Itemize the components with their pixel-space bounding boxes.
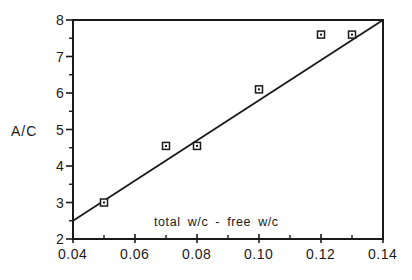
data-point xyxy=(163,142,170,149)
x-tick-label: 0.08 xyxy=(182,247,211,261)
data-point xyxy=(101,199,108,206)
x-tick-label: 0.12 xyxy=(306,247,335,261)
y-tick-label: 8 xyxy=(56,13,64,27)
fit-line xyxy=(73,20,383,221)
y-tick-label: 2 xyxy=(56,232,64,246)
data-point xyxy=(194,142,201,149)
plot-frame xyxy=(73,20,383,239)
plot-border xyxy=(73,20,383,239)
regression-line xyxy=(73,20,383,221)
marker-center-dot xyxy=(196,145,198,147)
y-axis-ticks xyxy=(66,20,73,239)
data-points xyxy=(101,31,356,206)
marker-center-dot xyxy=(103,202,105,204)
marker-center-dot xyxy=(320,34,322,36)
y-tick-label: 6 xyxy=(56,86,64,100)
y-axis-label: A/C xyxy=(11,124,37,138)
y-tick-label: 4 xyxy=(56,159,64,173)
x-tick-label: 0.04 xyxy=(58,247,87,261)
marker-center-dot xyxy=(351,34,353,36)
x-tick-label: 0.06 xyxy=(120,247,149,261)
marker-center-dot xyxy=(165,145,167,147)
y-tick-label: 5 xyxy=(56,123,64,137)
data-point xyxy=(256,86,263,93)
data-point xyxy=(318,31,325,38)
chart-annotation: total w/c - free w/c xyxy=(154,216,279,229)
x-tick-label: 0.10 xyxy=(244,247,273,261)
marker-center-dot xyxy=(258,88,260,90)
data-point xyxy=(349,31,356,38)
x-tick-label: 0.14 xyxy=(368,247,397,261)
y-tick-label: 7 xyxy=(56,50,64,64)
y-tick-label: 3 xyxy=(56,196,64,210)
